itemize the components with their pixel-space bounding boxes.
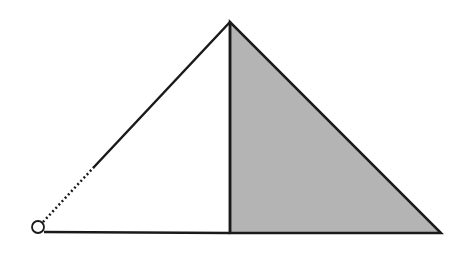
diagram-canvas [0, 0, 460, 257]
base-line-left [44, 232, 230, 233]
left-vertex-circle [32, 221, 44, 233]
left-slant-edge-dotted [43, 167, 94, 222]
shaded-right-triangle [230, 22, 441, 233]
left-slant-edge-solid [94, 22, 230, 167]
triangle-diagram [0, 0, 460, 257]
